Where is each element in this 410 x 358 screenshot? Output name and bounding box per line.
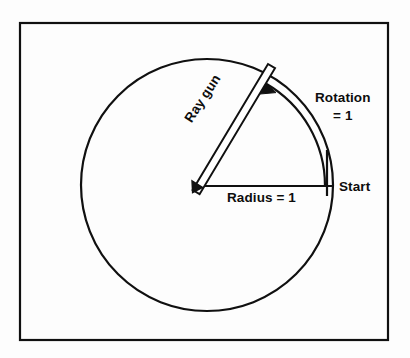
rotation-label-line1: Rotation [315, 90, 371, 105]
radius-label: Radius = 1 [227, 189, 296, 207]
start-label: Start [339, 178, 370, 196]
ray-gun-rotation-diagram: Rotation = 1 Start Radius = 1 Ray gun [0, 0, 410, 358]
rotation-label-line2: = 1 [315, 107, 371, 125]
rotation-label: Rotation = 1 [315, 89, 371, 125]
